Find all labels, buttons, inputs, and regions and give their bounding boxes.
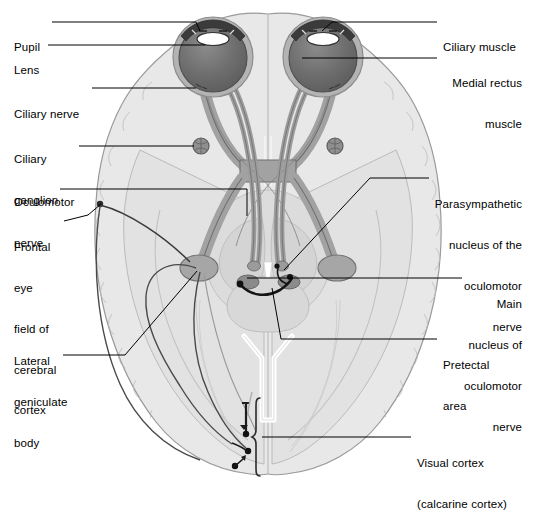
right-lens xyxy=(307,33,339,46)
label-visual-cortex: Visual cortex (calcarine cortex) xyxy=(417,430,507,514)
label-medial-rectus-muscle: Medial rectus muscle xyxy=(369,50,522,159)
left-ciliary-ganglion xyxy=(193,138,209,154)
leader-pupil xyxy=(52,22,200,31)
left-eyeball xyxy=(173,17,253,97)
right-lateral-geniculate-body xyxy=(318,255,356,281)
label-pretectal-area: Pretectal area xyxy=(443,332,489,441)
left-parasympathetic-nucleus xyxy=(248,261,261,271)
left-lens xyxy=(197,33,229,46)
label-lateral-geniculate-body: Lateral geniculate body xyxy=(14,328,67,478)
right-eyeball xyxy=(283,17,363,97)
right-ciliary-ganglion xyxy=(327,138,343,154)
